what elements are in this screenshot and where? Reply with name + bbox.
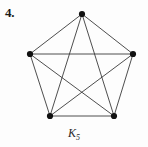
figure-panel: 4. K5	[0, 0, 148, 147]
graph-edge	[50, 54, 133, 116]
graph-edge	[50, 14, 82, 116]
graph-edge	[82, 14, 114, 116]
graph-edge	[30, 14, 82, 54]
graph-vertex	[27, 51, 33, 57]
graph-caption: K5	[0, 126, 148, 142]
graph-vertex	[79, 11, 85, 17]
caption-subscript: 5	[76, 133, 80, 142]
graph-edge-layer	[30, 14, 133, 116]
complete-graph-k5-diagram	[0, 0, 148, 147]
graph-edge	[82, 14, 133, 54]
graph-vertex	[47, 113, 53, 119]
graph-vertex	[130, 51, 136, 57]
graph-edge	[30, 54, 114, 116]
graph-edge	[30, 54, 50, 116]
graph-edge	[114, 54, 133, 116]
graph-vertex-layer	[27, 11, 136, 119]
graph-vertex	[111, 113, 117, 119]
caption-base-letter: K	[68, 126, 76, 140]
